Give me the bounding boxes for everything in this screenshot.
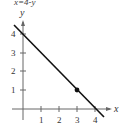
y-tick-4: 4: [11, 29, 16, 39]
y-tick-2: 2: [11, 66, 16, 76]
chart: x=4-y y x 1 2 3 4 1 2 3 4: [0, 0, 123, 133]
x-tick-1: 1: [39, 115, 44, 125]
y-tick-3: 3: [11, 48, 16, 58]
chart-title: x=4-y: [13, 0, 36, 7]
y-tick-1: 1: [11, 85, 16, 95]
data-point: [75, 88, 80, 93]
data-line: [14, 25, 104, 117]
y-axis-arrow-icon: [21, 20, 25, 26]
y-axis-label: y: [19, 7, 25, 18]
x-axis-label: x: [113, 103, 119, 114]
x-tick-2: 2: [57, 115, 62, 125]
x-axis-arrow-icon: [106, 107, 112, 111]
x-tick-4: 4: [93, 115, 98, 125]
x-tick-3: 3: [75, 115, 80, 125]
y-ticks: 1 2 3 4: [11, 29, 26, 95]
